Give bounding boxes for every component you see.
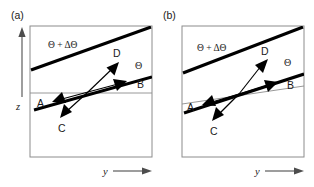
panel-b-lower-isentrope-label: Θ: [284, 57, 291, 68]
panel-b-vector-label-B: B: [287, 79, 294, 91]
panel-a-z-axis: z: [15, 27, 26, 112]
panel-b-upper-isentrope-label: Θ + ΔΘ: [197, 43, 227, 53]
panel-b: (b): [157, 0, 314, 187]
panel-a-vector-label-C: C: [58, 122, 66, 134]
panel-b-label: (b): [163, 9, 176, 21]
panel-a-vector-label-A: A: [37, 97, 44, 109]
panel-a-graphic: (a) z: [0, 0, 157, 187]
panel-a-label: (a): [11, 9, 24, 21]
panel-a-vector-label-B: B: [137, 78, 144, 90]
panel-a-y-axis: y: [102, 166, 152, 177]
panel-b-vector-label-A: A: [187, 101, 194, 113]
panel-a-lower-isentrope-label: Θ: [135, 60, 142, 71]
panel-b-vector-label-C: C: [210, 125, 218, 137]
panel-a-y-axis-label: y: [102, 166, 108, 177]
panel-b-y-axis-label: y: [254, 166, 260, 177]
panel-b-y-axis: y: [254, 166, 304, 177]
panel-b-vector-label-D: D: [261, 45, 269, 57]
panel-a-upper-isentrope-label: Θ + ΔΘ: [48, 40, 78, 50]
panel-a: (a) z: [0, 0, 157, 187]
panel-a-z-axis-label: z: [15, 101, 20, 112]
figure-root: (a) z: [0, 0, 314, 187]
panel-b-graphic: (b): [157, 0, 314, 187]
panel-a-vector-label-D: D: [113, 47, 121, 59]
